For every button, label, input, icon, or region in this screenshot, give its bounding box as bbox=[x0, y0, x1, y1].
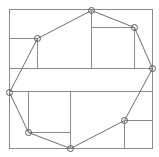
outer-frame bbox=[10, 10, 153, 149]
partition-hull-diagram bbox=[0, 0, 159, 157]
partition-lines bbox=[10, 11, 153, 149]
convex-hull-polygon bbox=[10, 11, 153, 149]
hull-vertices bbox=[7, 8, 156, 152]
